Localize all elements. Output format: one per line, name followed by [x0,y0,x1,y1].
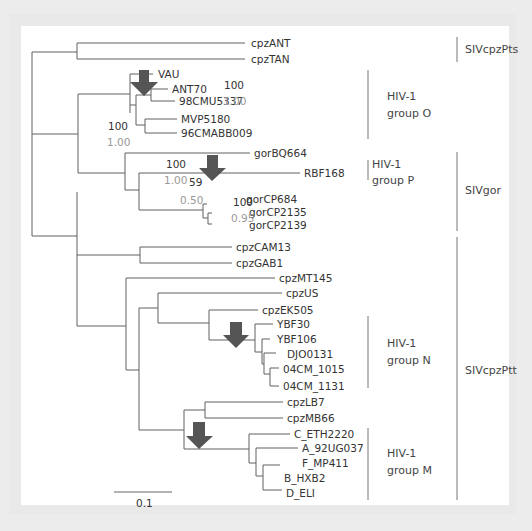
posterior-value: 0.95 [231,212,254,224]
group-label: HIV-1 [372,158,401,171]
leaf-label: DJO0131 [287,348,333,360]
bootstrap-value: 100 [233,196,253,208]
leaf-label: F_MP411 [302,457,349,470]
leaf-label: A_92UG037 [302,442,364,455]
leaf-labels: cpzANT cpzTAN VAU ANT70 98CMU5337 MVP518… [158,37,364,500]
group-label: group O [387,107,431,120]
group-label: group N [387,354,431,367]
leaf-label: gorCP684 [246,193,297,205]
leaf-label: cpzCAM13 [236,241,291,253]
posterior-value: 1.00 [164,174,187,186]
leaf-label: 04CM_1015 [283,363,345,376]
bootstrap-value: 100 [224,79,244,91]
bootstrap-value: 100 [166,158,186,170]
phylogenetic-tree: cpzANT cpzTAN VAU ANT70 98CMU5337 MVP518… [0,0,532,531]
posterior-value: 0.50 [180,194,203,206]
scale-bar: 0.1 [114,492,172,509]
leaf-label: cpzMT145 [279,272,332,284]
leaf-label: RBF168 [304,167,345,179]
posterior-value: 1.00 [223,95,246,107]
leaf-label: VAU [158,68,179,80]
leaf-label: ANT70 [172,83,207,95]
group-label: HIV-1 [387,337,416,350]
leaf-label: cpzUS [286,287,319,299]
leaf-label: 04CM_1131 [283,380,345,393]
arrow-down-icon [199,155,226,181]
scale-bar-label: 0.1 [136,497,153,509]
group-label: HIV-1 [387,447,416,460]
leaf-label: 96CMABB009 [181,127,252,139]
leaf-label: YBF30 [276,318,310,330]
posterior-value: 1.00 [107,136,130,148]
leaf-label: MVP5180 [181,113,230,125]
leaf-label: cpzTAN [251,53,290,65]
group-label: SIVgor [465,184,501,197]
group-label: group M [387,464,432,477]
bootstrap-value: 59 [189,176,202,188]
group-label: SIVcpzPts [465,43,519,56]
leaf-label: gorCP2139 [249,219,307,231]
leaf-label: gorBQ664 [254,147,307,159]
leaf-label: C_ETH2220 [294,428,354,441]
group-label: HIV-1 [387,90,416,103]
leaf-label: cpzGAB1 [236,257,283,269]
leaf-label: cpzEK505 [262,304,314,316]
leaf-label: cpzLB7 [287,396,325,408]
arrow-down-icon [223,322,249,348]
leaf-label: cpzANT [251,37,291,49]
leaf-label: B_HXB2 [284,472,325,485]
leaf-label: D_ELI [286,487,315,500]
group-label: SIVcpzPtt [465,364,518,377]
group-label: group P [372,174,414,187]
group-labels: HIV-1 group O HIV-1 group P HIV-1 group … [372,43,519,477]
leaf-label: cpzMB66 [287,412,335,424]
leaf-label: YBF106 [276,333,317,345]
bootstrap-value: 100 [108,120,128,132]
arrow-down-icon [186,422,213,449]
leaf-label: gorCP2135 [249,206,307,218]
